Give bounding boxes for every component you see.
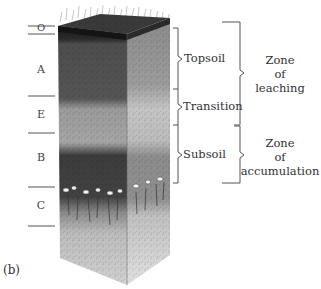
horizon-label-o: O xyxy=(27,22,55,33)
zone-accumulation-line3: accumulation xyxy=(240,164,320,178)
horizon-label-c: C xyxy=(27,199,55,212)
layer-label-subsoil: Subsoil xyxy=(183,147,226,161)
horizon-label-b: B xyxy=(27,151,55,164)
zone-leaching-line2: of xyxy=(240,67,320,81)
zone-label-accumulation: Zone of accumulation xyxy=(240,136,320,178)
horizon-label-a: A xyxy=(27,63,55,76)
horizon-label-e: E xyxy=(27,108,55,121)
zone-leaching-line1: Zone xyxy=(240,53,320,67)
zone-leaching-line3: leaching xyxy=(240,81,320,95)
horizon-dividers xyxy=(28,26,55,226)
zone-accumulation-line2: of xyxy=(240,150,320,164)
layer-label-transition: Transition xyxy=(183,99,243,113)
layer-label-topsoil: Topsoil xyxy=(184,51,225,65)
zone-label-leaching: Zone of leaching xyxy=(240,53,320,95)
zone-accumulation-line1: Zone xyxy=(240,136,320,150)
panel-label: (b) xyxy=(3,263,20,277)
layer-braces xyxy=(173,28,182,183)
